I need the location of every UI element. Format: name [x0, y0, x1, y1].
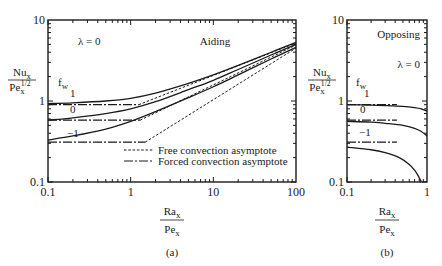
panel-label: (a)	[166, 246, 179, 259]
y-tick-label: 10	[332, 13, 344, 27]
chart-title: Opposing	[377, 28, 420, 40]
y-tick-label: 1	[338, 94, 344, 108]
free-asymptote-line-7	[140, 45, 296, 120]
legend: Free convection asymptoteForced convecti…	[124, 144, 288, 167]
chart-title: Aiding	[200, 35, 231, 47]
x-tick-label: 10	[207, 185, 219, 199]
panel-label: (b)	[381, 246, 394, 259]
y-tick-label: 10	[33, 13, 45, 27]
x-axis-label-denominator: Pex	[379, 223, 395, 238]
x-axis-label-denominator: Pex	[164, 223, 180, 238]
x-tick-label: 100	[287, 185, 305, 199]
y-axis-label-denominator: Pex1/2	[9, 79, 31, 96]
legend-label: Forced convection asymptote	[158, 155, 288, 167]
series-line-1	[48, 44, 296, 120]
x-axis-label-numerator: Rax	[379, 205, 396, 220]
chart-panel-b: 0.110.1110NuxPex1/2RaxPex(b)λ = 0Opposin…	[308, 13, 430, 259]
free-asymptote-line-8	[145, 48, 296, 142]
x-axis-label-numerator: Rax	[164, 205, 181, 220]
figure: 0.11101000.1110NuxPex1/2RaxPex(a)λ = 0Ai…	[0, 0, 442, 266]
lambda-annotation: λ = 0	[397, 58, 420, 70]
plot-frame	[347, 20, 427, 182]
y-axis-label-denominator: Pex1/2	[309, 79, 331, 96]
y-tick-label: 0.1	[329, 175, 344, 189]
series-line-2	[347, 147, 421, 182]
x-tick-label: 1	[424, 185, 430, 199]
series-label-fw--1: −1	[359, 126, 371, 138]
series-line-2	[48, 47, 296, 140]
series-line-0	[347, 105, 427, 111]
series-label-fw-1: 1	[70, 87, 76, 99]
series-label-fw--1: −1	[67, 127, 79, 139]
y-tick-label: 1	[39, 94, 45, 108]
x-tick-label: 1	[128, 185, 134, 199]
series-label-fw-1: 1	[364, 87, 370, 99]
parameter-label-fw: fw	[58, 76, 69, 91]
lambda-annotation: λ = 0	[78, 35, 101, 47]
y-tick-label: 0.1	[30, 175, 45, 189]
chart-panel-a: 0.11101000.1110NuxPex1/2RaxPex(a)λ = 0Ai…	[8, 13, 305, 259]
series-line-0	[48, 42, 296, 103]
